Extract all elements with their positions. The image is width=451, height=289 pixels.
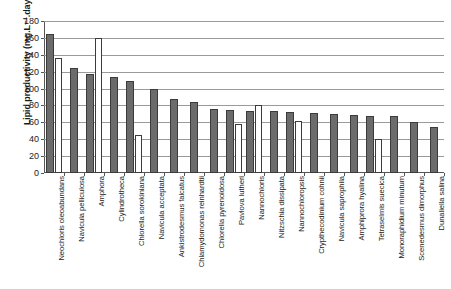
bar-primary <box>126 81 134 173</box>
bar-group <box>324 21 344 173</box>
bar-group <box>184 21 204 173</box>
lipid-productivity-bar-chart: Lipid productivity (mg.L⁻¹.day⁻¹) 020406… <box>0 0 451 289</box>
bar-primary <box>390 116 398 173</box>
x-axis-label: Amphora <box>97 176 106 206</box>
y-tick-label: 100 <box>24 84 39 94</box>
bar-group <box>264 21 284 173</box>
x-axis-label: Tetraselmis suecica <box>377 176 386 241</box>
x-axis-label: Ankistrodesmus falcatus <box>177 176 186 257</box>
y-tick-label: 160 <box>24 33 39 43</box>
bar-primary <box>270 111 278 173</box>
bar-group <box>424 21 444 173</box>
bar-group <box>244 21 264 173</box>
y-tick-label: 60 <box>29 117 39 127</box>
bar-secondary <box>295 121 303 173</box>
x-axis-label: Navicula acceptata <box>157 176 166 239</box>
bar-primary <box>190 102 198 173</box>
bar-primary <box>246 111 254 173</box>
x-axis-label: Chlorella sorokiniana <box>137 176 146 246</box>
x-axis-label: Pavlova lutheri <box>237 176 246 225</box>
x-axis-label: Scenedesmus dimorphus <box>417 176 426 261</box>
x-axis-label: Nannochloropsis <box>297 176 306 232</box>
bar-group <box>304 21 324 173</box>
plot-area: 020406080100120140160180 <box>44 21 444 173</box>
bar-primary <box>86 74 94 173</box>
x-axis-label: Navicula pelliculosa <box>77 176 86 242</box>
bar-group <box>84 21 104 173</box>
bar-group <box>364 21 384 173</box>
bar-secondary <box>135 135 143 173</box>
bar-primary <box>150 89 158 173</box>
bar-primary <box>46 34 54 173</box>
x-axis-label: Monoraphidium minutum <box>397 176 406 259</box>
y-tick-label: 20 <box>29 151 39 161</box>
bar-group <box>204 21 224 173</box>
bar-secondary <box>255 105 263 173</box>
bar-primary <box>430 127 438 173</box>
bar-primary <box>330 114 338 173</box>
bar-group <box>104 21 124 173</box>
x-axis-category-labels: Neochloris oleoabundansNavicula pellicul… <box>44 176 444 286</box>
bar-group <box>344 21 364 173</box>
bar-primary <box>110 77 118 173</box>
bar-primary <box>350 115 358 173</box>
bar-primary <box>286 112 294 173</box>
bar-primary <box>410 122 418 173</box>
x-axis-label: Amphiprora hyalina <box>357 176 366 241</box>
bar-group <box>44 21 64 173</box>
bar-secondary <box>95 38 103 173</box>
bar-primary <box>366 116 374 173</box>
bar-secondary <box>235 124 243 173</box>
y-tick-label: 80 <box>29 100 39 110</box>
bar-group <box>224 21 244 173</box>
bar-group <box>144 21 164 173</box>
bar-secondary <box>375 139 383 173</box>
bar-group <box>124 21 144 173</box>
bar-primary <box>226 110 234 173</box>
x-axis-label: Chlorella pyrenoidosa <box>217 176 226 248</box>
y-tick-label: 180 <box>24 16 39 26</box>
bar-primary <box>170 99 178 173</box>
x-axis-label: Cylindrotheca <box>117 176 126 222</box>
bar-group <box>164 21 184 173</box>
x-axis-label: Neochloris oleoabundans <box>57 176 66 261</box>
bar-secondary <box>55 58 63 173</box>
x-axis-label: Chlamydomonas reinhardtii <box>197 176 206 267</box>
bar-group <box>284 21 304 173</box>
bar-primary <box>210 109 218 173</box>
y-tick-label: 140 <box>24 50 39 60</box>
y-tick-label: 120 <box>24 67 39 77</box>
bar-group <box>404 21 424 173</box>
x-axis-label: Nitzschia dissipata <box>277 176 286 238</box>
y-tick-mark <box>41 173 44 174</box>
x-axis-label: Dunaliella salina <box>437 176 446 230</box>
y-tick-label: 40 <box>29 134 39 144</box>
y-tick-label: 0 <box>34 168 39 178</box>
bar-group <box>384 21 404 173</box>
bar-primary <box>310 113 318 173</box>
x-axis-label: Navicula saprophila <box>337 176 346 241</box>
bar-group <box>64 21 84 173</box>
bar-primary <box>70 68 78 173</box>
x-axis-label: Crypthecodinium cohnii <box>317 176 326 254</box>
bar-series-container <box>44 21 444 173</box>
x-axis-label: Nannochloris <box>257 176 266 220</box>
